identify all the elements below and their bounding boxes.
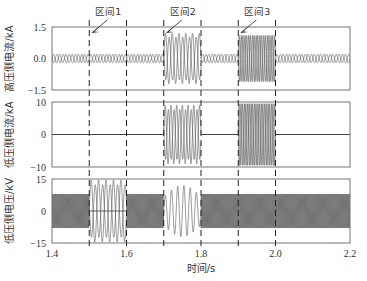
interval-annotation: 区间3 [240,5,279,33]
panel-2: 100−10低压侧电流/kA [3,97,350,173]
y-tick-label: 0 [41,129,46,140]
x-axis: 1.41.61.82.02.2时间/s [46,248,357,274]
panel-3: 150−15低压侧电压/kV [3,174,350,249]
y-tick-label: 0.0 [34,53,47,64]
annotation-label: 区间1 [95,6,121,17]
interval-annotation: 区间1 [91,5,130,33]
y-tick-label: 10 [36,97,46,108]
panels: 1.50.0−1.5高压侧电流/kA100−10低压侧电流/kA150−15低压… [3,22,350,249]
annotation-label: 区间3 [244,6,270,17]
x-tick-label: 1.4 [46,248,59,259]
x-tick-label: 1.6 [120,248,133,259]
y-axis-label: 低压侧电压/kV [3,178,15,244]
interval-annotation: 区间2 [166,5,205,33]
y-axis-label: 低压侧电流/kA [3,101,15,167]
x-tick-label: 2.2 [344,248,357,259]
y-tick-label: 1.5 [34,22,47,33]
x-axis-label: 时间/s [187,262,216,274]
interval-annotations: 区间1区间2区间3 [91,5,279,33]
annotation-label: 区间2 [170,6,196,17]
y-axis-label: 高压侧电流/kA [3,25,15,91]
y-tick-label: −10 [30,162,46,173]
y-tick-label: −15 [30,238,46,249]
y-tick-label: −1.5 [28,85,46,96]
panel-1: 1.50.0−1.5高压侧电流/kA [3,22,350,96]
x-tick-label: 2.0 [269,248,282,259]
y-tick-label: 0 [41,206,46,217]
y-tick-label: 15 [36,174,46,185]
waveform-chart: 1.50.0−1.5高压侧电流/kA100−10低压侧电流/kA150−15低压… [0,0,367,281]
x-tick-label: 1.8 [195,248,208,259]
